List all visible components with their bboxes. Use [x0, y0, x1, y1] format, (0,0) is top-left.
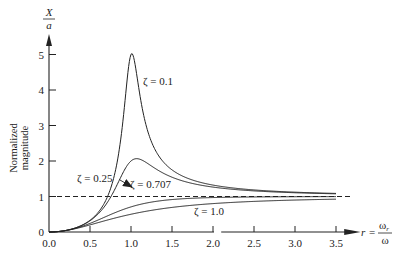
series-group	[49, 54, 336, 232]
y-axis-arrowhead	[46, 34, 52, 46]
x-tick-label: 1.5	[165, 237, 179, 249]
y-axis-title-line2: magnitude	[19, 126, 30, 171]
frequency-response-chart: Normalized magnitude X a 0.00.51.01.52.0…	[0, 0, 399, 257]
series-line-zeta-0.707	[49, 197, 336, 232]
x-tick-label: 2.5	[247, 237, 261, 249]
y-tick-label: 3	[39, 120, 45, 132]
x-title-denominator: ω	[381, 234, 388, 246]
x-tick-label: 1.0	[124, 237, 138, 249]
x-tick-label: 0.0	[42, 237, 56, 249]
y-axis-title-line1: Normalized	[8, 122, 19, 172]
y-tick-label: 2	[39, 155, 45, 167]
series-line-zeta-1	[49, 199, 336, 232]
x-tick-label: 3.0	[288, 237, 302, 249]
y-symbol-numerator: X	[45, 6, 54, 18]
x-tick-label: 2.0	[206, 237, 220, 249]
y-tick-label: 4	[39, 84, 45, 96]
series-line-zeta-0.25	[49, 159, 336, 232]
y-axis-title: Normalized magnitude	[8, 122, 30, 172]
x-axis-title: r = ωr ω	[361, 219, 392, 246]
y-axis-symbol: X a	[43, 6, 55, 31]
x-tick-label: 3.5	[329, 237, 343, 249]
label-zeta-0.1: ζ = 0.1	[143, 75, 173, 88]
x-tick-label: 0.5	[83, 237, 97, 249]
x-title-equals: =	[369, 226, 375, 238]
x-title-r: r	[361, 226, 366, 238]
y-symbol-denominator: a	[46, 19, 52, 31]
x-axis-arrowhead	[344, 229, 360, 235]
tick-group: 0.00.51.01.52.02.53.03.5012345	[39, 49, 344, 250]
y-tick-label: 1	[39, 191, 45, 203]
y-tick-label: 0	[39, 226, 45, 238]
label-zeta-1.0: ζ = 1.0	[194, 205, 225, 218]
label-zeta-0.707: ζ = 0.707	[130, 178, 172, 191]
y-tick-label: 5	[39, 49, 45, 61]
label-zeta-0.25: ζ = 0.25	[77, 172, 113, 185]
x-title-numerator: ωr	[379, 219, 389, 233]
